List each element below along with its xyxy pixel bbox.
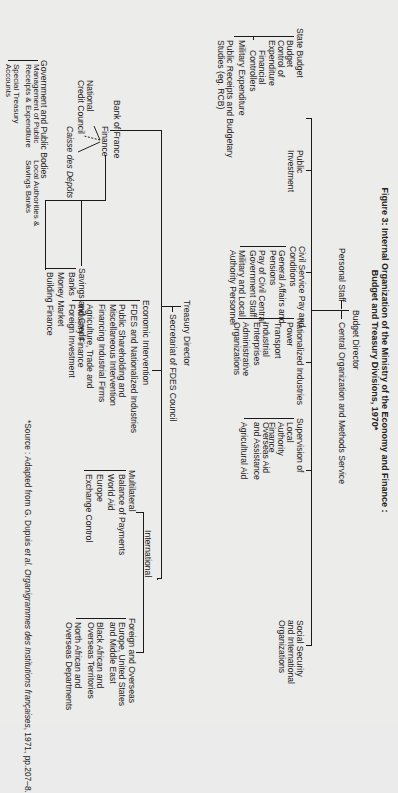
connector [136,652,144,653]
connector [254,36,294,37]
connector [306,645,312,646]
money-market: Money Market [56,272,65,326]
balance-of-payments: Balance of Payments [117,474,126,555]
connector [76,618,126,619]
budget-personal-staff: Personal Staff [337,248,346,302]
public-receipts: Public Receipts and Budgetary Studies (e… [216,40,234,170]
connector [306,362,312,363]
administrative-organizations: Administrative Organizations [232,322,250,392]
public-shareholding: Public Shareholding and Miscellaneous In… [108,304,126,424]
budget-item: Budget [285,40,294,67]
connector [234,36,254,37]
secretariat-fdes: Secretariat of FDES Council [168,314,177,421]
local-authorities-savings-banks: Local Authorities & Savings Banks [23,160,40,236]
connector [238,318,294,319]
connector [341,300,342,309]
source-prefix: *Source : Adapted from G. Dupuis [23,420,33,548]
finance-link-lines [76,118,102,158]
transport: Transport [273,322,282,358]
power: Power [285,322,294,346]
connector [244,418,294,419]
industrial-enterprises: Industrial Enterprises [252,322,270,372]
source-suffix: , 1971, pp.207–8. [23,728,33,793]
connector [311,310,349,311]
caisse-des-depots: Caisse des Dépôts [65,126,74,198]
budget-main-line [311,118,312,646]
military-expenditure: Military Expenditure [237,40,246,115]
europe-us-middle-east: Europe, United States and Middle East [108,622,126,722]
north-african-departments: North African and Overseas Departments [64,622,82,722]
connector [8,60,38,61]
public-investment: Public Investment [286,150,304,194]
connector [81,200,82,266]
exchange-control: Exchange Control [84,474,93,542]
supervision-of: Supervision of [295,418,304,472]
connector [306,470,312,471]
foreign-investment: Foreign Investment [67,304,76,378]
overseas-aid: Overseas Aid and Assistance [252,422,270,482]
title-line-2: Budget and Treasury Divisions, 1970* [370,180,380,520]
nationalized-industries: Nationalized Industries [295,318,304,405]
treasury-director: Treasury Director [182,300,191,366]
agricultural-aid: Agricultural Aid [239,422,248,479]
building-finance: Building Finance [45,272,54,336]
world-aid: World Aid [106,474,115,511]
control-expenditure: Control of Expenditure [267,40,285,96]
figure-title: Figure 3: Internal Organization of the M… [370,180,390,520]
banks: Banks [67,272,76,296]
fdes-nationalized: FDES and Nationalized Industries [129,304,138,433]
international: International [143,530,152,577]
connector [157,578,158,580]
agriculture-trade-finance: Agriculture, Trade and Industry Finance [76,304,94,394]
foreign-overseas: Foreign and Overseas [127,618,136,703]
connector [46,200,106,201]
connector [45,200,46,270]
special-treasury-accounts: Special Treasury Accounts [3,64,20,144]
connector [152,370,162,371]
black-african-territories: Black African and Overseas Territories [86,622,104,722]
treasury-main-line [161,130,162,578]
connector [158,578,162,579]
connector [136,512,144,513]
connector [72,300,140,301]
connector [46,268,76,269]
source-note: *Source : Adapted from G. Dupuis et al. … [23,420,32,793]
source-italic: et al. Organigrammes des Institutions fr… [23,548,33,727]
connector [105,155,106,200]
connector [172,306,173,312]
connector [341,310,342,319]
connector [143,512,144,652]
central-org-service: Central Organization and Methods Service [337,322,346,484]
state-budget: State Budget [295,28,304,78]
connector [240,246,286,247]
financial-controllers: Financial Controllers [248,50,266,100]
management-public-receipts: Management of Public Receipts & Expendit… [23,64,40,160]
social-security: Social Security and International Organi… [276,620,304,692]
connector [306,118,312,119]
connector [306,170,312,171]
multilateral: Multilateral [127,470,136,512]
bank-of-france: Bank of France [112,100,121,158]
budget-director: Budget Director [351,310,360,370]
title-line-1: Figure 3: Internal Organization of the M… [380,180,390,520]
connector [84,470,126,471]
europe: Europe [95,474,104,502]
financing-industrial-firms: Financing Industrial Firms [97,304,106,402]
economic-intervention: Economic Intervention [141,300,150,385]
